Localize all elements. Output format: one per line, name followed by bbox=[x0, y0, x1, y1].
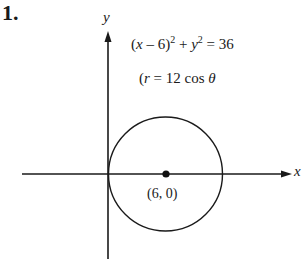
polar-rest: = 12 cos bbox=[150, 70, 208, 86]
center-point bbox=[162, 170, 169, 177]
cartesian-equation: (x – 6)2 + y2 = 36 bbox=[131, 36, 234, 53]
eq-plus: + bbox=[175, 36, 191, 52]
y-axis-arrow-icon bbox=[105, 31, 112, 42]
diagram: 1. y x (x – 6)2 + y2 = 36 (r = 12 cos θ … bbox=[0, 0, 303, 259]
y-axis-label: y bbox=[103, 9, 110, 26]
polar-equation: (r = 12 cos θ bbox=[139, 70, 216, 87]
problem-number: 1. bbox=[2, 0, 19, 26]
eq-rhs: = 36 bbox=[203, 36, 234, 52]
polar-theta: θ bbox=[208, 70, 215, 86]
eq-minus-part: – 6) bbox=[143, 36, 171, 52]
x-axis-label: x bbox=[294, 163, 301, 180]
x-axis-arrow-icon bbox=[281, 171, 292, 178]
center-label: (6, 0) bbox=[147, 186, 177, 202]
eq-var-x: x bbox=[136, 36, 143, 52]
eq-var-y: y bbox=[191, 36, 198, 52]
